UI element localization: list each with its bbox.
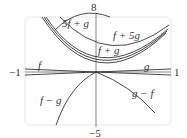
label-f-minus-g: f − g (40, 95, 61, 106)
label-g-minus-f: g − f (132, 88, 153, 99)
curve-f-minus-g (56, 72, 96, 125)
y-min-tick: −5 (89, 128, 101, 138)
x-min-tick: −1 (9, 67, 21, 78)
label-f-plus-5g: f + 5g (113, 30, 140, 41)
label-f: f (38, 60, 41, 71)
y-max-tick: 8 (91, 2, 97, 13)
label-5f-plus-g: 5f + g (62, 18, 89, 29)
curve-f-plus-g (42, 17, 166, 63)
label-g: g (144, 61, 150, 72)
function-plot (0, 0, 187, 138)
x-max-tick: 1 (174, 67, 180, 78)
label-f-plus-g: f + g (98, 45, 119, 56)
